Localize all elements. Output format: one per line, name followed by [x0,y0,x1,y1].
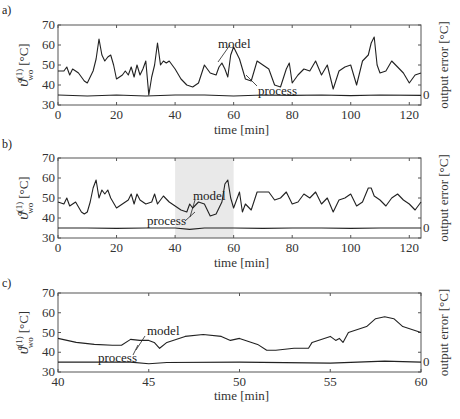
x-tick-label: 20 [110,240,123,255]
y-axis-label: ϑ(1)wo[°C] [14,176,35,219]
y-tick-label: 30 [42,230,55,245]
y-tick-label: 40 [42,77,55,92]
x-tick-label: 55 [324,374,337,389]
x-tick-label: 50 [233,374,246,389]
x-tick-label: 40 [169,240,182,255]
right-axis-label: output error [°C] [436,289,451,377]
panel-label: c) [2,276,11,290]
right-axis-label: output error [°C] [436,154,451,242]
y-tick-label: 70 [42,17,55,32]
y-tick-label: 30 [42,364,55,379]
x-tick-label: 60 [227,107,240,122]
chart-panel-b: 02040608010012030405060700modelprocessb)… [2,137,451,270]
y-tick-label: 70 [42,150,55,165]
y-tick-label: 60 [42,37,55,52]
y-tick-label: 40 [42,344,55,359]
x-tick-label: 100 [341,107,361,122]
panel-label: b) [2,137,12,151]
y-tick-label: 50 [42,325,55,340]
right-axis-label: output error [°C] [436,21,451,109]
model-annotation: model [147,323,180,338]
y-tick-label: 30 [42,97,55,112]
series-line [58,180,421,216]
x-tick-label: 45 [142,374,155,389]
series-line [58,228,421,229]
x-tick-label: 80 [286,240,299,255]
x-tick-label: 80 [286,107,299,122]
x-axis-label: time [min] [214,122,269,137]
series-line [58,317,421,351]
right-zero-tick: 0 [423,354,430,369]
y-tick-label: 50 [42,190,55,205]
right-zero-tick: 0 [423,87,430,102]
x-tick-label: 60 [415,374,428,389]
x-tick-label: 20 [110,107,123,122]
x-axis-label: time [min] [214,255,269,270]
axes-box [58,158,421,238]
x-tick-label: 0 [55,107,62,122]
x-tick-label: 40 [169,107,182,122]
x-tick-label: 120 [400,240,420,255]
process-annotation: process [258,83,297,98]
x-tick-label: 100 [341,240,361,255]
y-tick-label: 50 [42,57,55,72]
y-tick-label: 40 [42,210,55,225]
y-tick-label: 70 [42,285,55,300]
process-annotation: process [98,350,137,365]
x-tick-label: 60 [227,240,240,255]
x-tick-label: 120 [400,107,420,122]
chart-panel-a: 02040608010012030405060700modelprocessa)… [2,3,451,137]
chart-panel-c: 404550556030405060700modelprocessc)time … [2,276,451,403]
panel-label: a) [2,3,11,17]
x-axis-label: time [min] [214,388,269,403]
y-axis-label: ϑ(1)wo[°C] [14,43,35,86]
model-annotation: model [193,188,226,203]
process-annotation: process [147,213,186,228]
y-axis-label: ϑ(1)wo[°C] [14,311,35,354]
right-zero-tick: 0 [423,220,430,235]
x-tick-label: 0 [55,240,62,255]
y-tick-label: 60 [42,170,55,185]
y-tick-label: 60 [42,305,55,320]
model-annotation: model [218,36,251,51]
series-line [58,95,421,96]
figure: 02040608010012030405060700modelprocessa)… [0,0,460,419]
